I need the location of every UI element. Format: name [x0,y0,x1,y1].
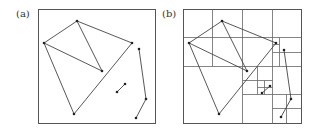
segment-endpoint [124,83,127,86]
segment-endpoint [283,49,286,52]
line-segment [281,50,291,117]
bounding-box [39,10,156,124]
segment-endpoint [73,113,76,116]
segment-endpoint [218,113,221,116]
segments-quadtree-diagram [0,0,315,131]
segment-endpoint [269,85,272,88]
segment-endpoint [221,20,224,23]
segment-endpoint [101,70,104,73]
line-segment [136,49,146,118]
panel-b-quadtree [184,10,302,124]
segment-endpoint [145,98,148,101]
panel-a-segments [39,10,156,124]
segment-endpoint [138,48,141,51]
line-segment [189,21,276,114]
segment-endpoint [280,116,283,119]
segment-endpoint [261,92,264,95]
segment-endpoint [188,42,191,45]
segment-endpoint [275,42,278,45]
segment-endpoint [135,117,138,120]
segment-endpoint [290,98,293,101]
line-segment [262,86,270,93]
segment-endpoint [76,20,79,23]
segment-endpoint [43,42,46,45]
segment-endpoint [131,42,134,45]
segment-endpoint [246,70,249,73]
segment-endpoint [116,91,119,94]
line-segment [44,21,132,114]
line-segment [117,84,125,92]
